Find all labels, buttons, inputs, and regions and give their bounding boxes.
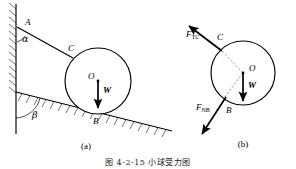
panel-b-group: FTC C O W FNB B (b) bbox=[185, 26, 275, 149]
diagram-canvas: A α C O W B β (a) bbox=[0, 0, 296, 169]
panel-label-b: (b) bbox=[238, 139, 249, 149]
label-center-O-a: O bbox=[88, 71, 95, 81]
label-angle-alpha: α bbox=[22, 33, 29, 44]
label-center-O-b: O bbox=[249, 63, 256, 73]
label-point-B-a: B bbox=[93, 116, 99, 126]
label-angle-beta: β bbox=[31, 109, 38, 120]
figure-caption: 图 4-2-15 小球受力图 bbox=[0, 157, 296, 168]
wall-hatching bbox=[9, 3, 16, 93]
force-vector-FNB bbox=[202, 97, 226, 134]
label-force-FNB: FNB bbox=[195, 102, 210, 113]
panel-a-group: A α C O W B β (a) bbox=[9, 3, 172, 151]
label-force-FNB-subscript: NB bbox=[202, 107, 210, 113]
label-weight-b: W bbox=[248, 80, 257, 90]
physics-figure: A α C O W B β (a) bbox=[0, 0, 296, 169]
label-point-C-b: C bbox=[217, 32, 224, 42]
label-point-B-b: B bbox=[226, 105, 232, 115]
label-force-FTC: FTC bbox=[185, 29, 199, 40]
label-point-C-a: C bbox=[68, 43, 75, 53]
label-force-FTC-subscript: TC bbox=[192, 34, 200, 40]
panel-label-a: (a) bbox=[81, 141, 91, 151]
label-point-A: A bbox=[24, 17, 31, 27]
label-weight-a: W bbox=[103, 85, 112, 95]
